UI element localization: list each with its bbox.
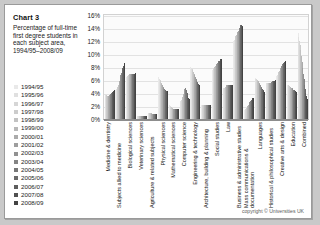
chart-paper-panel: Chart 3 Percentage of full-time first de… (4, 4, 312, 219)
bar-group (254, 15, 265, 119)
bar-group (104, 15, 115, 119)
legend-item-label: 2005/06 (21, 174, 43, 182)
bar-group (222, 15, 233, 119)
legend-swatch-icon (14, 127, 18, 131)
x-axis-label-slot: Agriculture & related subjects (146, 121, 157, 210)
legend-swatch-icon (14, 201, 18, 205)
bar-group (168, 15, 179, 119)
legend-item-label: 2008/09 (21, 199, 43, 207)
x-axis-label-slot: Creative arts & design (276, 121, 287, 210)
x-axis-label-slot: Law (222, 121, 233, 210)
y-axis-tick-label: 2% (91, 103, 100, 110)
legend-swatch-icon (14, 193, 18, 197)
legend-swatch-icon (14, 93, 18, 97)
x-axis-label-slot: Subjects allied to medicine (114, 121, 125, 210)
x-axis-label-slot: Medicine & dentistry (103, 121, 114, 210)
legend-item: 1997/98 (14, 108, 80, 116)
legend-swatch-icon (14, 102, 18, 106)
x-axis-label-slot: Computer science (179, 121, 190, 210)
legend-item: 2004/05 (14, 166, 80, 174)
bar-group (136, 15, 147, 119)
x-axis-tick-label: Mathematical sciences (170, 122, 176, 178)
y-axis-tick-label: 4% (91, 90, 100, 97)
legend-item: 1999/00 (14, 124, 80, 132)
legend-item-label: 1995/96 (21, 91, 43, 99)
y-axis-tick-label: 10% (87, 51, 100, 58)
x-axis-tick-label: Biological sciences (127, 122, 133, 168)
legend-item: 2008/09 (14, 199, 80, 207)
bar-group (276, 15, 287, 119)
legend-swatch-icon (14, 135, 18, 139)
x-axis-tick-label: Creative arts & design (279, 122, 285, 176)
legend-item-label: 1994/95 (21, 83, 43, 91)
plot-area (103, 14, 309, 120)
legend-item-label: 2004/05 (21, 166, 43, 174)
x-axis-tick-label: Education (290, 122, 296, 146)
bar-group (158, 15, 169, 119)
legend-item: 2007/08 (14, 191, 80, 199)
legend-item: 2002/03 (14, 149, 80, 157)
y-axis-tick-label: 0% (91, 116, 100, 123)
legend-item-label: 2002/03 (21, 149, 43, 157)
x-axis-tick-label: Physical sciences (160, 122, 166, 165)
chart-subtitle: Percentage of full-time first degree stu… (13, 24, 79, 54)
x-axis-tick-label: Subjects allied to medicine (116, 122, 122, 208)
x-axis-label-slot: Architecture, building & planning (201, 121, 212, 210)
x-axis-category-labels: Medicine & dentistrySubjects allied to m… (103, 121, 309, 210)
x-axis-tick-label: Social studies (214, 122, 220, 156)
legend-item: 1998/99 (14, 116, 80, 124)
legend-swatch-icon (14, 176, 18, 180)
legend-item: 2001/02 (14, 141, 80, 149)
bar-group (179, 15, 190, 119)
legend-swatch-icon (14, 118, 18, 122)
legend-item-label: 1998/99 (21, 116, 43, 124)
bar-group (115, 15, 126, 119)
page-title: Chart 3 (13, 13, 79, 22)
legend-item: 1994/95 (14, 83, 80, 91)
x-axis-tick-label: Business & administrative studies (236, 122, 242, 208)
y-axis-tick-label: 6% (91, 77, 100, 84)
y-axis-tick-label: 16% (87, 12, 100, 19)
legend-item-label: 1997/98 (21, 108, 43, 116)
y-axis-tick-label: 8% (91, 64, 100, 71)
copyright-notice: copyright © Universities UK (242, 208, 304, 214)
x-axis-label-slot: Historical & philosophical studies (266, 121, 277, 210)
chart-caption-block: Chart 3 Percentage of full-time first de… (13, 13, 79, 54)
x-axis-tick-label: Combined (301, 122, 307, 147)
y-axis-tick-label: 14% (87, 25, 100, 32)
x-axis-label-slot: Languages (255, 121, 266, 210)
bar-group (125, 15, 136, 119)
chart-legend: 1994/951995/961996/971997/981998/991999/… (14, 83, 80, 207)
bar-group (244, 15, 255, 119)
x-axis-label-slot: Mass communications & documentation (244, 121, 255, 210)
legend-item: 1995/96 (14, 91, 80, 99)
x-axis-tick-label: Veterinary sciences (138, 122, 144, 170)
legend-swatch-icon (14, 143, 18, 147)
x-axis-tick-label: Languages (257, 122, 263, 149)
legend-swatch-icon (14, 152, 18, 156)
legend-item-label: 2007/08 (21, 191, 43, 199)
bar-group (147, 15, 158, 119)
x-axis-tick-label: Historical & philosophical studies (268, 122, 274, 208)
bar-group (286, 15, 297, 119)
legend-item: 2005/06 (14, 174, 80, 182)
legend-item-label: 2000/01 (21, 133, 43, 141)
x-axis-tick-label: Medicine & dentistry (105, 122, 111, 172)
x-axis-tick-label: Mass communications & documentation (243, 122, 255, 208)
bar-groups (104, 15, 308, 119)
x-axis-tick-label: Architecture, building & planning (203, 122, 209, 208)
legend-item: 2006/07 (14, 183, 80, 191)
legend-swatch-icon (14, 168, 18, 172)
x-axis-label-slot: Combined (298, 121, 309, 210)
x-axis-label-slot: Engineering & technology (190, 121, 201, 210)
bar-group (265, 15, 276, 119)
bar-group (201, 15, 212, 119)
legend-swatch-icon (14, 85, 18, 89)
x-axis-label-slot: Physical sciences (157, 121, 168, 210)
screenshot-page: Chart 3 Percentage of full-time first de… (0, 0, 320, 225)
x-axis-label-slot: Mathematical sciences (168, 121, 179, 210)
plot-area-wrapper: 16%14%12%10%8%6%4%2%0% Medicine & dentis… (81, 14, 309, 210)
bar-group (297, 15, 308, 119)
x-axis-label-slot: Biological sciences (125, 121, 136, 210)
legend-item-label: 2003/04 (21, 158, 43, 166)
